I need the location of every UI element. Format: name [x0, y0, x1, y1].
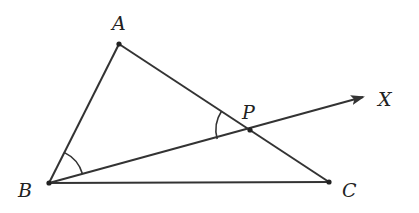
label-p: P	[241, 101, 256, 123]
point-c	[326, 179, 331, 184]
point-p	[247, 127, 252, 132]
ray-bx	[49, 97, 363, 183]
triangle-diagram: A B C P X	[0, 0, 419, 213]
segment-bc	[49, 182, 329, 183]
segment-ac	[119, 44, 329, 182]
segment-ab	[49, 44, 119, 183]
label-a: A	[110, 12, 126, 34]
angle-arc-b	[65, 153, 83, 174]
label-c: C	[342, 179, 357, 201]
angle-arc-p	[216, 111, 222, 139]
point-a	[116, 41, 121, 46]
label-b: B	[17, 179, 32, 201]
point-b	[46, 180, 51, 185]
label-x: X	[376, 88, 393, 110]
